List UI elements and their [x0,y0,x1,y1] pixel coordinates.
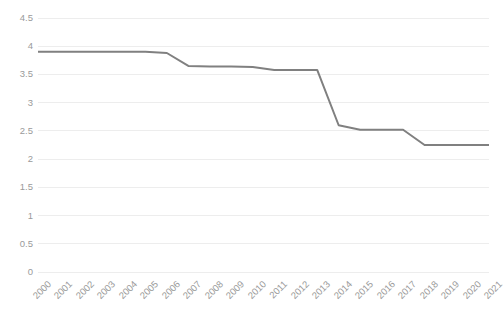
y-axis-tick-label: 0 [0,267,33,277]
y-axis-tick-label: 3 [0,98,33,108]
y-axis-tick-label: 0.5 [0,239,33,249]
y-axis-tick-label: 1.5 [0,182,33,192]
y-axis-tick-label: 1 [0,211,33,221]
gridlines-group [38,18,489,272]
y-axis-tick-label: 4 [0,41,33,51]
y-axis-tick-label: 2 [0,154,33,164]
y-axis-tick-label: 4.5 [0,13,33,23]
y-axis-tick-label: 3.5 [0,69,33,79]
y-axis-tick-label: 2.5 [0,126,33,136]
